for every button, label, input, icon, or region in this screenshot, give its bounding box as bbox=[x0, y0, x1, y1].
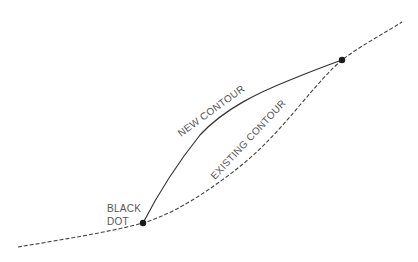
existing-contour-line bbox=[18, 22, 402, 247]
contour-diagram: BLACK DOT NEW CONTOUR EXISTING CONTOUR bbox=[0, 0, 418, 262]
black-dot-upper bbox=[339, 57, 345, 63]
black-dot-label-line2: DOT bbox=[107, 216, 129, 227]
new-contour-label: NEW CONTOUR bbox=[176, 83, 247, 139]
black-dot-lower bbox=[140, 220, 146, 226]
black-dot-label-line1: BLACK bbox=[107, 203, 141, 214]
